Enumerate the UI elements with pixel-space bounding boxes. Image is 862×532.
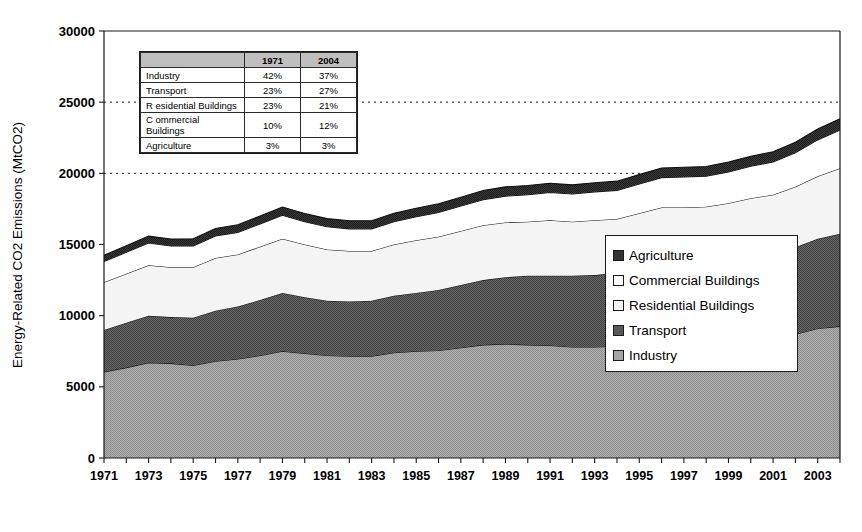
legend-swatch-transport [613, 325, 624, 336]
y-tick-label: 20000 [59, 166, 95, 181]
table-cell-2004: 27% [301, 83, 357, 98]
table-cell-sector: C ommercial Buildings [141, 113, 245, 138]
x-tick-label: 1993 [581, 469, 609, 483]
table-cell-1971: 42% [245, 68, 301, 83]
table-row: Agriculture 3% 3% [141, 138, 357, 153]
legend-swatch-industry [613, 350, 624, 361]
legend-swatch-commercial-buildings [613, 275, 624, 286]
table-body: Industry 42% 37% Transport 23% 27% R esi… [141, 68, 357, 153]
chart-page: 0500010000150002000025000300001971197319… [0, 0, 862, 532]
y-tick-label: 25000 [59, 95, 95, 110]
table-cell-1971: 3% [245, 138, 301, 153]
x-tick-label: 1971 [90, 469, 118, 483]
table-header-2004: 2004 [301, 53, 357, 68]
x-tick-label: 1983 [358, 469, 386, 483]
table-cell-1971: 10% [245, 113, 301, 138]
table-row: C ommercial Buildings 10% 12% [141, 113, 357, 138]
table-head: 1971 2004 [141, 53, 357, 68]
legend-item-residential-buildings[interactable]: Residential Buildings [613, 293, 797, 318]
sector-share-table: 1971 2004 Industry 42% 37% Transport 23%… [139, 51, 358, 154]
legend-label-residential-buildings: Residential Buildings [629, 299, 754, 313]
legend-item-commercial-buildings[interactable]: Commercial Buildings [613, 268, 797, 293]
legend-item-transport[interactable]: Transport [613, 318, 797, 343]
legend-label-industry: Industry [629, 349, 677, 363]
legend-swatch-agriculture [613, 250, 624, 261]
table-header-1971: 1971 [245, 53, 301, 68]
table-row: Transport 23% 27% [141, 83, 357, 98]
table-cell-2004: 37% [301, 68, 357, 83]
table-row: R esidential Buildings 23% 21% [141, 98, 357, 113]
y-tick-label: 0 [88, 451, 95, 466]
table-cell-sector: R esidential Buildings [141, 98, 245, 113]
legend-label-agriculture: Agriculture [629, 249, 694, 263]
table-cell-sector: Agriculture [141, 138, 245, 153]
y-axis-title: Energy-Related CO2 Emissions (MtCO2) [10, 122, 25, 368]
table-row: Industry 42% 37% [141, 68, 357, 83]
x-tick-label: 1977 [224, 469, 252, 483]
x-tick-label: 1979 [269, 469, 297, 483]
sector-share-table-grid: 1971 2004 Industry 42% 37% Transport 23%… [140, 52, 357, 153]
x-tick-label: 2003 [804, 469, 832, 483]
y-tick-label: 5000 [66, 379, 95, 394]
table-cell-1971: 23% [245, 83, 301, 98]
legend-item-agriculture[interactable]: Agriculture [613, 243, 797, 268]
legend-swatch-residential-buildings [613, 300, 624, 311]
y-tick-label: 10000 [59, 308, 95, 323]
x-tick-label: 1997 [670, 469, 698, 483]
legend-label-commercial-buildings: Commercial Buildings [629, 274, 760, 288]
y-tick-label: 15000 [59, 237, 95, 252]
x-tick-label: 1991 [536, 469, 564, 483]
table-header-row: 1971 2004 [141, 53, 357, 68]
table-cell-2004: 3% [301, 138, 357, 153]
x-tick-label: 2001 [759, 469, 787, 483]
table-corner-header [141, 53, 245, 68]
table-cell-sector: Transport [141, 83, 245, 98]
x-tick-label: 1981 [313, 469, 341, 483]
table-cell-2004: 21% [301, 98, 357, 113]
table-cell-sector: Industry [141, 68, 245, 83]
x-tick-label: 1989 [492, 469, 520, 483]
x-tick-label: 1973 [135, 469, 163, 483]
x-tick-label: 1995 [625, 469, 653, 483]
table-cell-2004: 12% [301, 113, 357, 138]
chart-legend: Agriculture Commercial Buildings Residen… [605, 235, 798, 372]
y-tick-label: 30000 [59, 24, 95, 39]
x-tick-label: 1975 [179, 469, 207, 483]
legend-label-transport: Transport [629, 324, 686, 338]
x-tick-label: 1999 [715, 469, 743, 483]
x-tick-label: 1985 [402, 469, 430, 483]
legend-item-industry[interactable]: Industry [613, 343, 797, 368]
table-cell-1971: 23% [245, 98, 301, 113]
x-tick-label: 1987 [447, 469, 475, 483]
